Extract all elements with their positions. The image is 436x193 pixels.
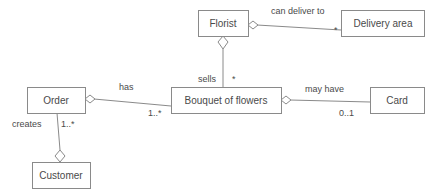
class-name-bouquet-of-flowers: Bouquet of flowers: [185, 95, 268, 106]
association-label-can-deliver-to: can deliver to: [271, 6, 325, 16]
diagram-canvas: Florist Delivery area Bouquet of flowers…: [0, 0, 436, 193]
link-order-bouquet: [94, 99, 171, 106]
multiplicity-customer-creates: 1..*: [61, 119, 75, 129]
class-name-delivery-area: Delivery area: [354, 18, 413, 29]
aggregation-diamond-florist-delivery-area: [248, 21, 258, 29]
uml-class-diagram: Florist Delivery area Bouquet of flowers…: [0, 0, 436, 193]
association-label-has: has: [119, 82, 134, 92]
multiplicity-card: 0..1: [339, 108, 354, 118]
class-name-florist: Florist: [209, 18, 236, 29]
link-florist-delivery-area: [257, 25, 341, 30]
aggregation-diamond-bouquet-card: [281, 96, 291, 104]
class-name-card: Card: [386, 95, 408, 106]
multiplicity-bouquet-sells: *: [232, 74, 236, 84]
association-label-creates: creates: [12, 119, 42, 129]
aggregation-diamond-florist-bouquet: [218, 36, 228, 49]
multiplicity-delivery-area: *: [334, 25, 338, 35]
multiplicity-bouquet-has: 1..*: [148, 108, 162, 118]
aggregation-diamond-order-bouquet: [85, 95, 95, 103]
class-name-order: Order: [43, 95, 69, 106]
association-label-may-have: may have: [305, 84, 344, 94]
link-bouquet-card: [290, 100, 370, 102]
link-order-customer: [57, 113, 60, 150]
aggregation-diamond-order-customer: [55, 150, 65, 162]
association-label-sells: sells: [198, 74, 217, 84]
class-name-customer: Customer: [39, 170, 83, 181]
